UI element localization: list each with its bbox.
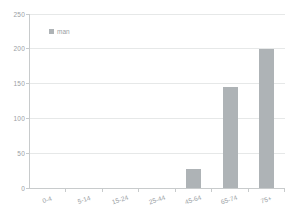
bar-45-64 xyxy=(186,169,201,188)
x-axis-tick xyxy=(211,189,212,192)
legend: man xyxy=(49,28,70,35)
bar-chart-figure: 050100150200250 man 0-45-1415-2425-4445-… xyxy=(0,0,295,218)
gridline-y-250 xyxy=(30,14,285,15)
x-tick-label-25-44: 25-44 xyxy=(139,191,173,208)
x-axis-tick xyxy=(284,189,285,192)
x-axis-tick xyxy=(248,189,249,192)
gridline-y-200 xyxy=(30,48,285,49)
gridline-y-150 xyxy=(30,83,285,84)
y-tick-label-50: 50 xyxy=(0,150,25,157)
x-tick-label-0-4: 0-4 xyxy=(30,191,64,208)
y-tick-label-250: 250 xyxy=(0,11,25,18)
x-tick-label-45-64: 45-64 xyxy=(176,191,210,208)
legend-label-man: man xyxy=(57,28,70,35)
bar-65-74 xyxy=(223,87,238,188)
x-tick-label-75+: 75+ xyxy=(249,191,283,208)
gridline-y-50 xyxy=(30,153,285,154)
x-axis-tick xyxy=(175,189,176,192)
x-tick-label-65-74: 65-74 xyxy=(212,191,246,208)
x-tick-label-5-14: 5-14 xyxy=(66,191,100,208)
x-axis-tick xyxy=(102,189,103,192)
y-tick-label-0: 0 xyxy=(0,185,25,192)
x-tick-label-15-24: 15-24 xyxy=(103,191,137,208)
y-tick-label-100: 100 xyxy=(0,115,25,122)
legend-swatch-man xyxy=(49,29,54,34)
y-tick-label-200: 200 xyxy=(0,45,25,52)
x-axis-tick xyxy=(138,189,139,192)
plot-area: man xyxy=(29,14,285,189)
gridline-y-100 xyxy=(30,118,285,119)
y-tick-label-150: 150 xyxy=(0,80,25,87)
x-axis-tick xyxy=(65,189,66,192)
bar-75+ xyxy=(259,49,274,188)
